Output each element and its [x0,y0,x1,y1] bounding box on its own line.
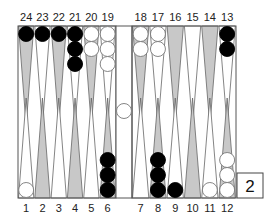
point-label-3: 3 [56,202,62,214]
black-checker[interactable] [100,168,115,183]
white-checker[interactable] [100,27,115,42]
bar-white-checker[interactable] [117,104,132,119]
black-checker[interactable] [100,183,115,198]
doubling-cube[interactable]: 2 [237,173,263,198]
backgammon-board: 242322212019181716151413123456789101112 … [0,0,274,220]
white-checker[interactable] [150,27,165,42]
black-checker[interactable] [220,42,235,57]
point-label-1: 1 [23,202,29,214]
point-label-23: 23 [36,11,48,23]
point-label-6: 6 [105,202,111,214]
white-checker[interactable] [220,153,235,168]
point-label-21: 21 [69,11,81,23]
black-checker[interactable] [19,27,34,42]
white-checker[interactable] [202,183,217,198]
point-label-5: 5 [88,202,94,214]
point-label-11: 11 [204,202,215,214]
black-checker[interactable] [150,153,165,168]
white-checker[interactable] [220,168,235,183]
white-checker[interactable] [150,42,165,57]
white-checker[interactable] [133,27,148,42]
black-checker[interactable] [68,57,83,72]
point-label-9: 9 [172,202,178,214]
doubling-cube-value: 2 [245,177,254,196]
white-checker[interactable] [19,183,34,198]
point-label-18: 18 [135,11,147,23]
point-label-22: 22 [53,11,65,23]
point-label-17: 17 [152,11,164,23]
point-label-14: 14 [204,11,216,23]
point-label-24: 24 [20,11,32,23]
white-checker[interactable] [100,57,115,72]
point-label-2: 2 [39,202,45,214]
point-label-20: 20 [85,11,97,23]
black-checker[interactable] [220,27,235,42]
point-label-16: 16 [169,11,181,23]
black-checker[interactable] [168,183,183,198]
point-label-13: 13 [221,11,233,23]
point-label-19: 19 [102,11,114,23]
point-label-15: 15 [186,11,198,23]
point-label-10: 10 [186,202,198,214]
white-checker[interactable] [133,42,148,57]
point-label-4: 4 [72,202,78,214]
black-checker[interactable] [35,27,50,42]
black-checker[interactable] [68,27,83,42]
white-checker[interactable] [84,42,99,57]
point-label-12: 12 [221,202,233,214]
black-checker[interactable] [150,168,165,183]
black-checker[interactable] [150,183,165,198]
black-checker[interactable] [68,42,83,57]
point-label-7: 7 [138,202,144,214]
point-label-8: 8 [155,202,161,214]
white-checker[interactable] [220,183,235,198]
black-checker[interactable] [51,27,66,42]
white-checker[interactable] [84,27,99,42]
white-checker[interactable] [100,42,115,57]
black-checker[interactable] [100,153,115,168]
